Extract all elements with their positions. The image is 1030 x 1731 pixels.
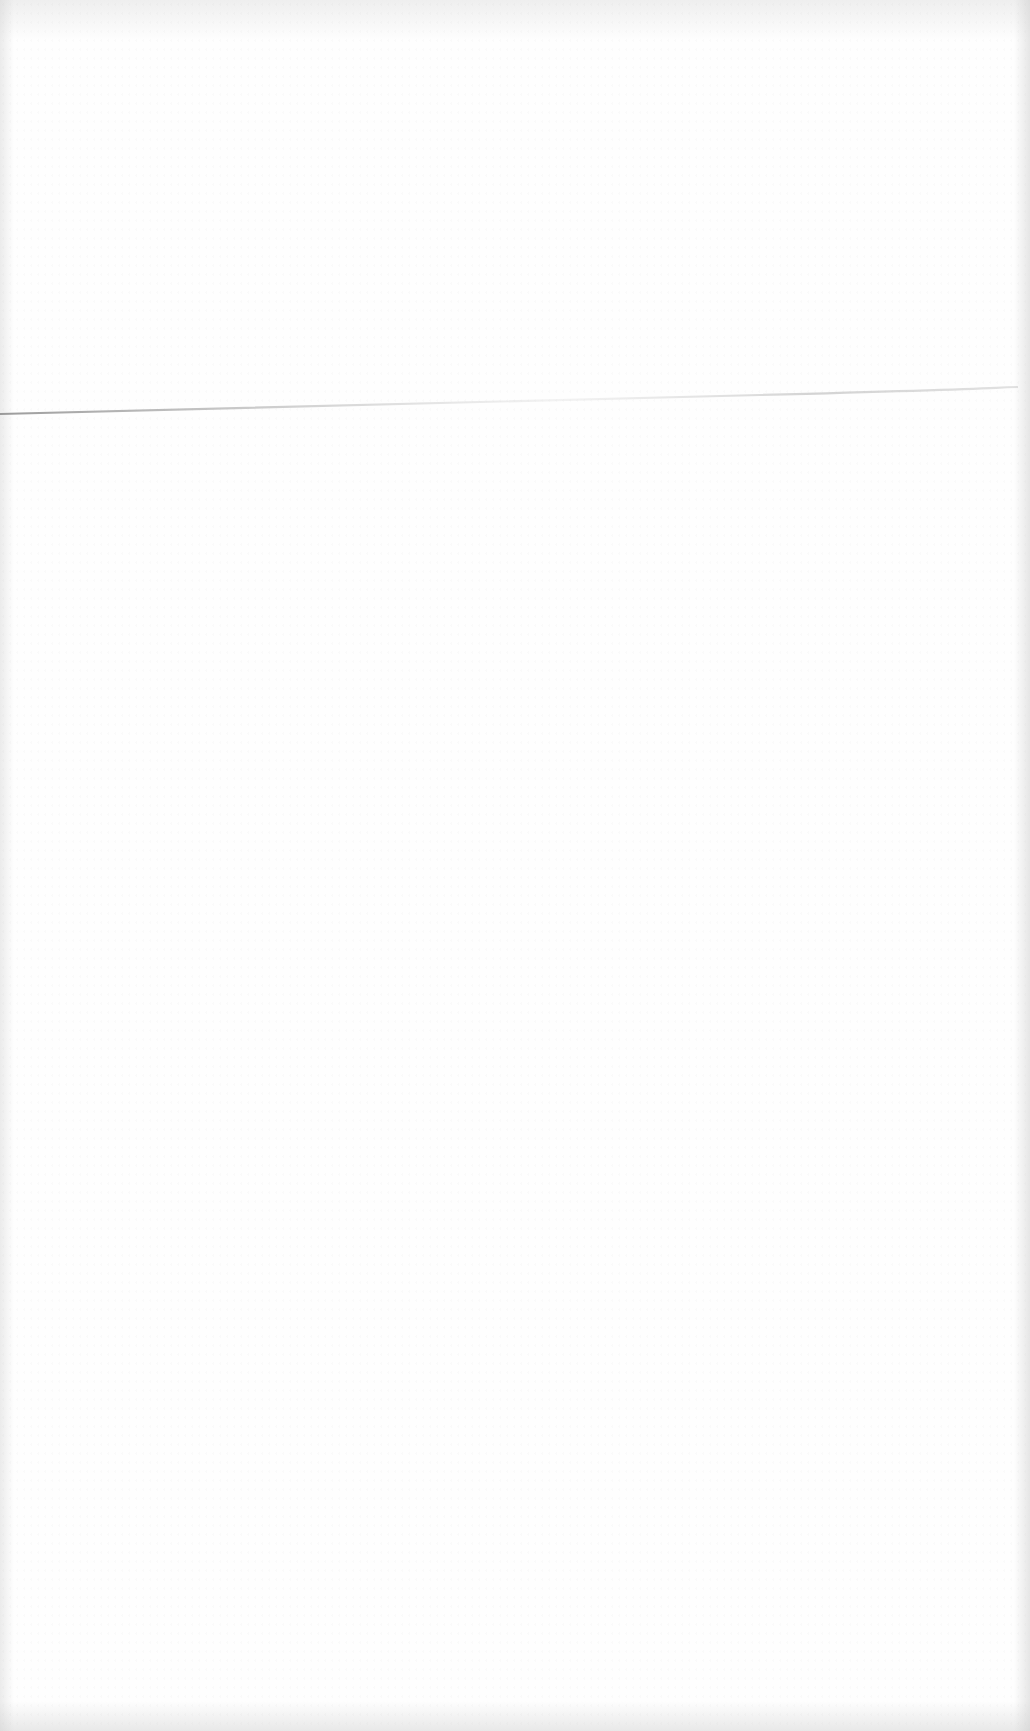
paper-texture <box>0 0 1030 1731</box>
scanned-blank-page <box>0 0 1030 1731</box>
